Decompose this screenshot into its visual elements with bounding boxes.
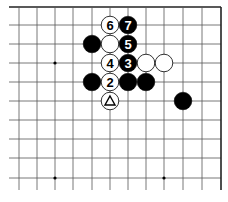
white-stone-triangle xyxy=(101,92,119,110)
move-number: 5 xyxy=(124,37,131,52)
move-number: 6 xyxy=(106,18,113,33)
black-stone-7: 7 xyxy=(119,16,137,34)
black-stone xyxy=(119,73,137,91)
move-number: 7 xyxy=(124,18,131,33)
white-stone xyxy=(155,54,173,72)
black-stone xyxy=(83,35,101,53)
move-number: 2 xyxy=(106,75,113,90)
white-stone-6: 6 xyxy=(101,16,119,34)
black-stone xyxy=(137,73,155,91)
move-number: 3 xyxy=(124,56,131,71)
black-stone-5: 5 xyxy=(119,35,137,53)
white-stone-4: 4 xyxy=(101,54,119,72)
black-stone-3: 3 xyxy=(119,54,137,72)
star-point-icon xyxy=(53,61,56,64)
black-stone xyxy=(83,73,101,91)
black-stone xyxy=(174,92,192,110)
move-number: 4 xyxy=(106,56,114,71)
star-point-icon xyxy=(162,176,165,179)
star-point-icon xyxy=(53,176,56,179)
white-stone xyxy=(101,35,119,53)
white-stone-2: 2 xyxy=(101,73,119,91)
go-board: 675432 xyxy=(0,0,228,202)
white-stone xyxy=(137,54,155,72)
